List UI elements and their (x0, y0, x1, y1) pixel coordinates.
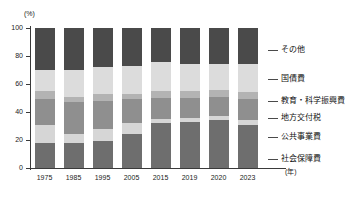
bar-segment (64, 70, 84, 97)
bar-segment (93, 67, 113, 94)
legend-label: 公共事業費 (281, 131, 321, 143)
bar-segment (180, 98, 200, 118)
bar-1995 (93, 28, 113, 168)
bar-segment (238, 64, 258, 92)
bar-2015 (151, 28, 171, 168)
bar-segment (64, 97, 84, 103)
bar-segment (180, 28, 200, 64)
legend-leader-line (268, 101, 278, 102)
plot-area: 020406080100 (30, 28, 262, 168)
legend: その他国債費教育・科学振興費地方交付税公共事業費社会保障費 (268, 0, 364, 197)
bar-segment (209, 97, 229, 117)
bar-2019 (180, 28, 200, 168)
legend-label: 地方交付税 (281, 112, 321, 124)
bar-1975 (35, 28, 55, 168)
bar-segment (180, 91, 200, 98)
legend-label: 国債費 (281, 73, 305, 85)
bar-segment (151, 91, 171, 98)
y-axis-tick-mark (26, 140, 30, 141)
bar-segment (238, 99, 258, 120)
bar-segment (209, 90, 229, 97)
legend-leader-line (268, 79, 278, 80)
legend-leader-line (268, 159, 278, 160)
bar-segment (238, 125, 258, 168)
bar-segment (122, 134, 142, 168)
bar-2023 (238, 28, 258, 168)
bar-segment (180, 118, 200, 122)
bar-segment (209, 64, 229, 89)
legend-leader-line (268, 118, 278, 119)
y-axis-tick-label: 100 (11, 23, 23, 32)
bar-segment (35, 70, 55, 91)
bar-segment (122, 123, 142, 134)
y-axis-tick-label: 20 (15, 135, 23, 144)
bar-segment (35, 143, 55, 168)
bar-segment (93, 94, 113, 101)
bar-segment (238, 28, 258, 64)
y-axis-tick-mark (26, 84, 30, 85)
bar-segment (35, 91, 55, 99)
bar-segment (151, 62, 171, 91)
bar-segment (209, 116, 229, 120)
y-axis-tick-mark (26, 56, 30, 57)
legend-label: その他 (281, 44, 305, 56)
y-axis-tick-mark (26, 28, 30, 29)
bar-segment (180, 64, 200, 91)
bar-segment (122, 99, 142, 123)
bar-segment (35, 99, 55, 124)
bar-segment (238, 120, 258, 124)
bar-segment (122, 66, 142, 94)
bar-segment (93, 101, 113, 129)
bar-segment (35, 28, 55, 70)
y-axis-tick-label: 40 (15, 107, 23, 116)
y-axis-tick-label: 80 (15, 51, 23, 60)
bar-segment (151, 119, 171, 123)
bar-segment (151, 98, 171, 119)
bar-2005 (122, 28, 142, 168)
bar-segment (151, 28, 171, 62)
bar-2020 (209, 28, 229, 168)
bar-segment (93, 141, 113, 168)
legend-leader-line (268, 137, 278, 138)
y-axis-tick-mark (26, 112, 30, 113)
bar-segment (93, 129, 113, 142)
bar-segment (151, 123, 171, 168)
x-axis-tick-label: 2023 (231, 173, 265, 182)
bar-segment (64, 28, 84, 70)
bar-segment (64, 143, 84, 168)
bar-segment (122, 94, 142, 100)
bar-segment (238, 92, 258, 99)
bar-segment (209, 120, 229, 168)
bar-segment (180, 122, 200, 168)
bar-segment (35, 125, 55, 143)
bar-segment (64, 134, 84, 142)
y-axis-tick-mark (26, 168, 30, 169)
legend-label: 社会保障費 (281, 153, 321, 165)
legend-label: 教育・科学振興費 (281, 95, 345, 107)
stacked-bar-chart-figure: (%) (年) 020406080100 1975198519952005201… (0, 0, 364, 197)
y-axis-unit-label: (%) (24, 9, 35, 18)
y-axis-tick-label: 0 (19, 163, 23, 172)
bar-segment (209, 28, 229, 64)
x-axis-line (28, 168, 286, 169)
bar-segment (122, 28, 142, 66)
legend-leader-line (268, 50, 278, 51)
bar-1985 (64, 28, 84, 168)
y-axis-tick-label: 60 (15, 79, 23, 88)
bar-segment (64, 102, 84, 134)
bar-segment (93, 28, 113, 67)
